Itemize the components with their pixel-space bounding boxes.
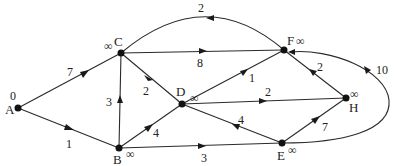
label-b: B [113,152,122,166]
arrow-f-c-icon [206,15,214,21]
weight-e-f: 10 [376,63,388,77]
distance-h: ∞ [350,87,359,101]
arrow-e-h-icon [311,116,320,124]
weight-d-f: 1 [249,71,255,85]
edge-c-d [121,53,182,104]
weight-h-f: 2 [317,60,323,74]
distance-a: 0 [10,89,16,103]
weight-b-c: 3 [106,95,112,109]
edge-e-f [282,52,389,143]
weight-b-d: 4 [153,126,159,140]
label-e: E [277,148,285,163]
node-c [118,50,125,57]
node-a [15,105,22,112]
arrow-b-e-icon [198,143,206,149]
arrow-a-b-icon [64,124,74,130]
label-h: H [349,100,358,115]
node-e [279,140,286,147]
weight-d-h: 2 [265,85,271,99]
distance-b: ∞ [126,147,135,161]
distance-c: ∞ [104,39,113,53]
edge-e-d [182,104,282,143]
distance-f: ∞ [296,34,305,48]
arrow-b-d-icon [144,124,153,132]
distance-e: ∞ [288,143,297,157]
weight-a-c: 7 [67,65,73,79]
distance-d: ∞ [190,91,199,105]
graph-diagram: 7 1 3 2 4 8 2 3 1 2 [0,0,394,166]
label-c: C [114,34,123,49]
arrow-b-c-icon [117,95,123,103]
node-b [116,145,123,152]
edges: 7 1 3 2 4 8 2 3 1 2 [18,1,389,165]
label-f: F [287,33,294,48]
label-a: A [5,102,15,117]
node-d [179,101,186,108]
weight-c-f: 8 [197,56,203,70]
arrow-c-f-icon [199,48,207,54]
arrow-a-c-icon [80,70,89,78]
arrow-d-f-icon [240,69,248,76]
weight-c-d: 2 [143,84,149,98]
label-d: D [176,84,185,99]
weight-f-c: 2 [198,1,204,15]
edge-f-c [121,17,284,53]
weight-e-h: 7 [322,120,328,134]
weight-a-b: 1 [66,137,72,151]
weight-b-e: 3 [201,151,207,165]
weight-e-d: 4 [238,113,244,127]
